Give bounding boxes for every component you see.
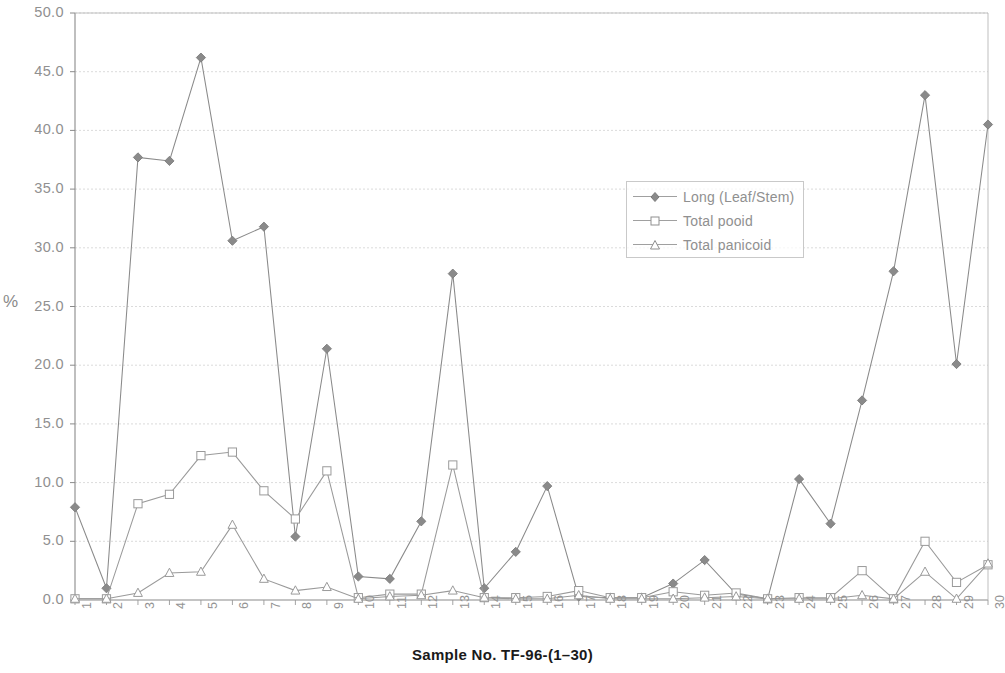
series-line xyxy=(75,58,988,599)
y-tick-label: 25.0 xyxy=(12,298,64,314)
chart-figure: % 0.05.010.015.020.025.030.035.040.045.0… xyxy=(0,0,1005,673)
data-point-marker xyxy=(858,567,866,575)
x-tick-label: 18 xyxy=(615,595,629,609)
data-point-marker xyxy=(385,574,394,583)
data-point-marker xyxy=(291,532,300,541)
data-point-marker xyxy=(826,519,835,528)
y-tick-label: 35.0 xyxy=(12,180,64,196)
x-tick-label: 22 xyxy=(741,595,755,609)
data-point-marker xyxy=(165,568,174,576)
x-tick-label: 10 xyxy=(363,595,377,609)
legend-label: Total panicoid xyxy=(683,237,771,253)
data-point-marker xyxy=(228,520,237,528)
data-point-marker xyxy=(920,91,929,100)
x-axis-title: Sample No. TF-96-(1–30) xyxy=(0,646,1005,663)
x-tick-label: 9 xyxy=(332,602,346,609)
legend-key-open-square-icon xyxy=(633,214,677,228)
y-tick-label: 40.0 xyxy=(12,121,64,137)
y-tick-label: 10.0 xyxy=(12,474,64,490)
x-tick-label: 2 xyxy=(111,602,125,609)
data-point-marker xyxy=(197,451,205,459)
y-tick-label: 5.0 xyxy=(12,532,64,548)
data-point-marker xyxy=(259,222,268,231)
legend-item-total-panicoid: Total panicoid xyxy=(633,233,771,257)
x-tick-label: 6 xyxy=(237,602,251,609)
x-tick-label: 14 xyxy=(489,595,503,609)
data-point-marker xyxy=(228,448,236,456)
x-tick-label: 12 xyxy=(426,595,440,609)
x-tick-label: 30 xyxy=(993,595,1005,609)
data-point-marker xyxy=(291,515,299,523)
data-point-marker xyxy=(165,490,173,498)
y-tick-label: 15.0 xyxy=(12,415,64,431)
series-3 xyxy=(71,520,993,602)
x-tick-label: 28 xyxy=(930,595,944,609)
y-tick-label: 45.0 xyxy=(12,63,64,79)
data-point-marker xyxy=(197,567,206,575)
x-tick-label: 3 xyxy=(143,602,157,609)
legend-item-total-pooid: Total pooid xyxy=(633,209,753,233)
x-tick-label: 13 xyxy=(458,595,472,609)
series-line xyxy=(75,525,988,599)
data-point-marker xyxy=(70,503,79,512)
series-line xyxy=(75,452,988,599)
data-point-marker xyxy=(669,579,678,588)
y-tick-label: 50.0 xyxy=(12,4,64,20)
data-point-marker xyxy=(322,582,331,590)
x-tick-label: 7 xyxy=(269,602,283,609)
legend-key-filled-diamond-icon xyxy=(633,190,677,204)
data-point-marker xyxy=(323,467,331,475)
data-point-marker xyxy=(134,500,142,508)
data-point-marker xyxy=(133,153,142,162)
data-point-marker xyxy=(165,156,174,165)
data-point-marker xyxy=(952,359,961,368)
x-tick-label: 24 xyxy=(804,595,818,609)
x-tick-label: 27 xyxy=(899,595,913,609)
x-tick-label: 11 xyxy=(395,596,409,609)
data-point-marker xyxy=(449,461,457,469)
legend-item-long-leaf-stem: Long (Leaf/Stem) xyxy=(633,185,794,209)
x-tick-label: 23 xyxy=(773,595,787,609)
data-point-marker xyxy=(134,588,143,596)
chart-legend: Long (Leaf/Stem) Total pooid Total panic… xyxy=(626,181,804,258)
data-point-marker xyxy=(983,120,992,129)
legend-key-open-triangle-icon xyxy=(633,238,677,252)
data-point-marker xyxy=(448,269,457,278)
y-tick-label: 0.0 xyxy=(12,591,64,607)
y-tick-label: 30.0 xyxy=(12,239,64,255)
data-point-marker xyxy=(857,396,866,405)
x-tick-label: 4 xyxy=(174,602,188,609)
x-tick-label: 15 xyxy=(521,595,535,609)
x-tick-label: 25 xyxy=(836,595,850,609)
x-tick-label: 16 xyxy=(552,595,566,609)
data-point-marker xyxy=(921,567,930,575)
series-1 xyxy=(70,53,992,603)
legend-label: Long (Leaf/Stem) xyxy=(683,189,794,205)
x-tick-label: 19 xyxy=(647,595,661,609)
data-point-marker xyxy=(921,537,929,545)
data-point-marker xyxy=(260,487,268,495)
data-point-marker xyxy=(952,578,960,586)
plot-canvas xyxy=(0,0,1005,673)
x-tick-label: 26 xyxy=(867,595,881,609)
data-point-marker xyxy=(259,574,268,582)
x-tick-label: 8 xyxy=(300,602,314,609)
x-tick-label: 20 xyxy=(678,595,692,609)
data-point-marker xyxy=(322,344,331,353)
data-point-marker xyxy=(196,53,205,62)
x-tick-label: 5 xyxy=(206,602,220,609)
x-tick-label: 29 xyxy=(962,595,976,609)
data-point-marker xyxy=(448,586,457,594)
data-point-marker xyxy=(228,236,237,245)
data-point-marker xyxy=(354,572,363,581)
series-2 xyxy=(71,448,992,603)
y-tick-label: 20.0 xyxy=(12,356,64,372)
data-point-marker xyxy=(858,591,867,599)
x-tick-label: 17 xyxy=(584,595,598,609)
data-point-marker xyxy=(417,517,426,526)
x-tick-label: 1 xyxy=(80,602,94,609)
x-tick-label: 21 xyxy=(710,595,724,609)
legend-label: Total pooid xyxy=(683,213,753,229)
data-point-marker xyxy=(889,267,898,276)
